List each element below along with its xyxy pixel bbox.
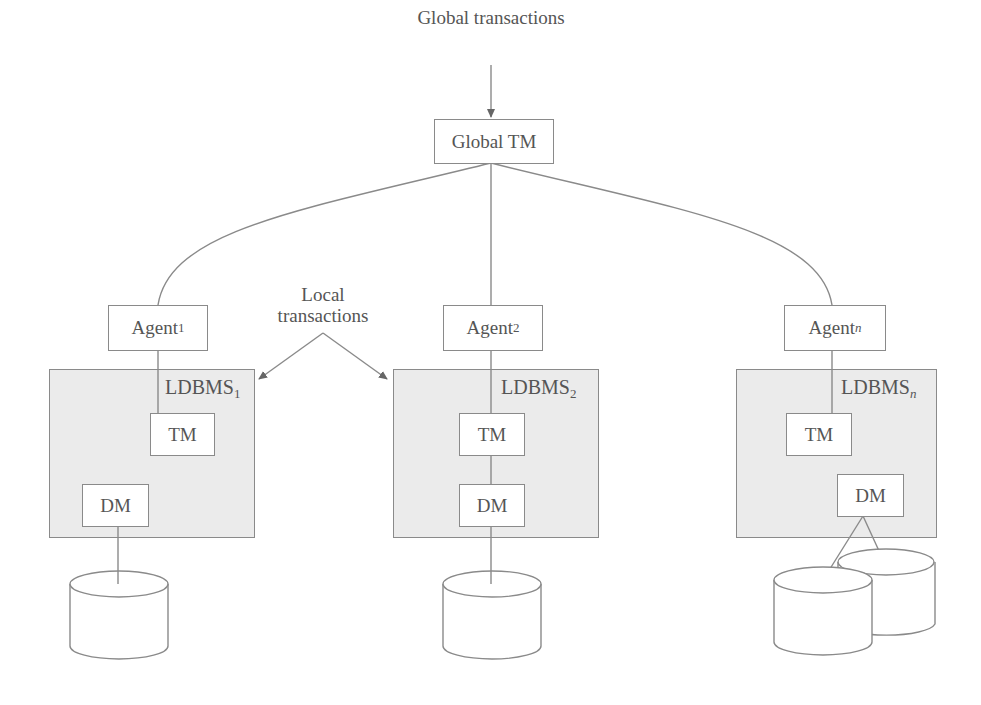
ldbms-1-subscript: 1 <box>234 386 241 401</box>
tm-1-label: TM <box>168 424 197 446</box>
agent-2-subscript: 2 <box>513 320 520 336</box>
dm-n-box: DM <box>837 474 904 517</box>
ldbms-n-subscript: n <box>910 386 917 401</box>
ldbms-1-text: LDBMS <box>165 376 234 398</box>
agent-n-subscript: n <box>855 320 862 336</box>
tm-2-label: TM <box>478 424 507 446</box>
tm-n-label: TM <box>805 424 834 446</box>
dm-1-box: DM <box>82 484 149 527</box>
database-1-icon <box>70 571 168 659</box>
ldbms-n-text: LDBMS <box>841 376 910 398</box>
agent-n-label: Agent <box>809 317 855 339</box>
local-transactions-arrow-1 <box>259 333 323 379</box>
ldbms-1-label: LDBMS1 <box>165 376 240 402</box>
ldbms-2-label: LDBMS2 <box>501 376 576 402</box>
agent-1-label: Agent <box>132 317 178 339</box>
ldbms-n-label: LDBMSn <box>841 376 916 402</box>
agent-2-label: Agent <box>467 317 513 339</box>
agent-1-box: Agent1 <box>108 305 208 351</box>
ldbms-2-subscript: 2 <box>570 386 577 401</box>
dm-2-label: DM <box>477 495 508 517</box>
dm-1-label: DM <box>100 495 131 517</box>
tm-n-box: TM <box>786 413 852 456</box>
local-label-line1: Local <box>263 285 383 306</box>
dm-2-box: DM <box>459 484 525 527</box>
global-tm-label: Global TM <box>452 131 537 153</box>
database-n-front-icon <box>774 567 872 655</box>
global-transactions-label: Global transactions <box>391 8 591 29</box>
connector-lines <box>0 0 981 705</box>
database-2-icon <box>443 571 541 659</box>
ldbms-2-text: LDBMS <box>501 376 570 398</box>
global-tm-to-agent-n-line <box>491 163 832 305</box>
tm-1-box: TM <box>150 413 215 456</box>
agent-n-box: Agentn <box>784 305 886 351</box>
local-transactions-arrow-2 <box>323 333 387 379</box>
local-label-line2: transactions <box>263 306 383 327</box>
local-transactions-label: Local transactions <box>263 285 383 327</box>
agent-1-subscript: 1 <box>178 320 185 336</box>
tm-2-box: TM <box>459 413 525 456</box>
global-tm-box: Global TM <box>434 119 554 164</box>
dm-n-label: DM <box>855 485 886 507</box>
agent-2-box: Agent2 <box>443 305 543 351</box>
